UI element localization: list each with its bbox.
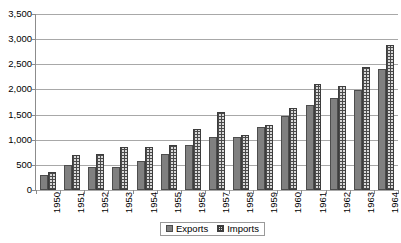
legend-item-exports: Exports: [166, 224, 208, 234]
bar-imports-1954: [145, 147, 153, 190]
bar-group: [36, 14, 60, 190]
bar-exports-1950: [40, 175, 48, 190]
bar-group: [60, 14, 84, 190]
y-axis-tick-label: 3,500: [8, 9, 32, 19]
legend-swatch-icon: [217, 225, 224, 232]
bar-imports-1958: [241, 135, 249, 190]
bar-imports-1956: [193, 129, 201, 190]
x-axis-tick-label: 1960: [293, 192, 303, 213]
x-axis-tick-label: 1952: [100, 192, 110, 213]
bar-imports-1961: [314, 84, 322, 190]
bar-exports-1957: [209, 137, 217, 190]
bar-imports-1959: [265, 125, 273, 190]
x-axis-tick-label: 1956: [197, 192, 207, 213]
gridline: [36, 190, 398, 191]
bar-exports-1958: [233, 137, 241, 190]
bar-exports-1960: [281, 116, 289, 190]
bar-imports-1964: [386, 45, 394, 190]
x-axis-tick-label: 1953: [124, 192, 134, 213]
x-axis-tick-label: 1951: [76, 192, 86, 213]
y-axis-tickmark: [32, 165, 36, 166]
bar-exports-1959: [257, 127, 265, 190]
y-axis-tick-label: 500: [16, 160, 32, 170]
x-axis-tick-label: 1963: [366, 192, 376, 213]
bar-exports-1953: [112, 167, 120, 190]
bar-group: [108, 14, 132, 190]
chart-legend: ExportsImports: [160, 222, 265, 236]
plot-area: [36, 14, 398, 190]
bar-chart: 3,5003,0002,5002,0001,5001,0005000 19501…: [0, 0, 401, 243]
bar-group: [133, 14, 157, 190]
bar-exports-1964: [378, 69, 386, 190]
bar-exports-1961: [306, 105, 314, 190]
x-axis: 1950195119521953195419551956195719581959…: [36, 192, 398, 222]
bar-imports-1951: [72, 155, 80, 190]
y-axis-tickmark: [32, 64, 36, 65]
bar-group: [84, 14, 108, 190]
bar-group: [277, 14, 301, 190]
bar-group: [157, 14, 181, 190]
y-axis-tick-label: 1,500: [8, 110, 32, 120]
bar-imports-1955: [169, 145, 177, 190]
bar-imports-1960: [289, 108, 297, 190]
y-axis-tickmark: [32, 89, 36, 90]
y-axis-tickmark: [32, 140, 36, 141]
y-axis-tick-label: 3,000: [8, 34, 32, 44]
x-axis-tick-label: 1950: [52, 192, 62, 213]
bar-imports-1957: [217, 112, 225, 190]
bar-imports-1950: [48, 172, 56, 190]
bar-group: [229, 14, 253, 190]
bar-exports-1954: [137, 161, 145, 190]
x-axis-tick-label: 1962: [342, 192, 352, 213]
legend-label: Exports: [176, 224, 208, 234]
bar-exports-1963: [354, 90, 362, 190]
x-axis-tick-label: 1964: [390, 192, 400, 213]
x-axis-tick-label: 1961: [318, 192, 328, 213]
bar-imports-1953: [120, 147, 128, 190]
bar-group: [301, 14, 325, 190]
bar-imports-1962: [338, 86, 346, 190]
bar-group: [374, 14, 398, 190]
x-axis-tick-label: 1958: [245, 192, 255, 213]
x-axis-tick-label: 1957: [221, 192, 231, 213]
bar-imports-1952: [96, 154, 104, 190]
y-axis-tickmark: [32, 39, 36, 40]
y-axis-tick-label: 1,000: [8, 135, 32, 145]
x-axis-tick-label: 1955: [173, 192, 183, 213]
bar-group: [350, 14, 374, 190]
bar-exports-1951: [64, 165, 72, 190]
bar-group: [326, 14, 350, 190]
bar-exports-1952: [88, 167, 96, 190]
bar-exports-1955: [161, 154, 169, 190]
legend-swatch-icon: [166, 225, 173, 232]
y-axis-tickmark: [32, 14, 36, 15]
y-axis-tick-label: 2,500: [8, 60, 32, 70]
bar-exports-1962: [330, 98, 338, 190]
bar-group: [181, 14, 205, 190]
x-axis-tick-label: 1954: [149, 192, 159, 213]
bar-imports-1963: [362, 67, 370, 190]
bar-group: [205, 14, 229, 190]
legend-label: Imports: [227, 224, 259, 234]
y-axis-tick-label: 2,000: [8, 85, 32, 95]
y-axis-tickmark: [32, 115, 36, 116]
bar-group: [253, 14, 277, 190]
x-axis-tick-label: 1959: [269, 192, 279, 213]
bar-series-container: [36, 14, 398, 190]
bar-exports-1956: [185, 145, 193, 190]
legend-item-imports: Imports: [217, 224, 259, 234]
y-axis: 3,5003,0002,5002,0001,5001,0005000: [0, 0, 32, 243]
